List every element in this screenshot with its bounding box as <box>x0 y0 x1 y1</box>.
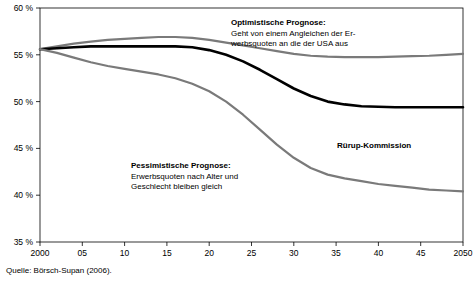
y-tick-label: 60 % <box>14 3 34 13</box>
annotation-optimistic-line2: werbsquoten an die der USA aus <box>231 39 348 48</box>
annotation-pessimistic-title: Pessimistische Prognose: <box>131 161 231 170</box>
y-tick-label: 50 % <box>14 97 34 107</box>
annotation-ruerup: Rürup-Kommission <box>337 141 411 152</box>
y-tick-label: 55 % <box>14 50 34 60</box>
x-tick-label: 25 <box>247 248 257 258</box>
y-tick-label: 45 % <box>14 143 34 153</box>
annotation-pessimistic-line2: Geschlecht bleiben gleich <box>131 182 222 191</box>
x-tick-label: 05 <box>78 248 88 258</box>
y-tick-label: 35 % <box>14 237 34 247</box>
annotation-optimistic-title: Optimistische Prognose: <box>231 18 326 27</box>
annotation-optimistic-line1: Geht von einem Angleichen der Er- <box>231 29 356 38</box>
x-tick-label: 2000 <box>31 248 50 258</box>
source-note: Quelle: Börsch-Supan (2006). <box>6 266 112 275</box>
chart-container: 35 %40 %45 %50 %55 %60 %2000051015202530… <box>0 0 473 283</box>
annotation-pessimistic: Pessimistische Prognose: Erwerbsquoten n… <box>131 161 331 193</box>
x-tick-label: 10 <box>120 248 130 258</box>
x-tick-label: 30 <box>289 248 299 258</box>
x-tick-label: 20 <box>204 248 214 258</box>
annotation-pessimistic-line1: Erwerbsquoten nach Alter und <box>131 172 238 181</box>
x-tick-label: 45 <box>416 248 426 258</box>
x-tick-label: 40 <box>374 248 384 258</box>
x-tick-label: 2050 <box>454 248 473 258</box>
annotation-optimistic: Optimistische Prognose: Geht von einem A… <box>231 18 431 50</box>
x-tick-label: 15 <box>162 248 172 258</box>
x-tick-label: 35 <box>331 248 341 258</box>
y-tick-label: 40 % <box>14 190 34 200</box>
annotation-ruerup-title: Rürup-Kommission <box>337 141 411 150</box>
